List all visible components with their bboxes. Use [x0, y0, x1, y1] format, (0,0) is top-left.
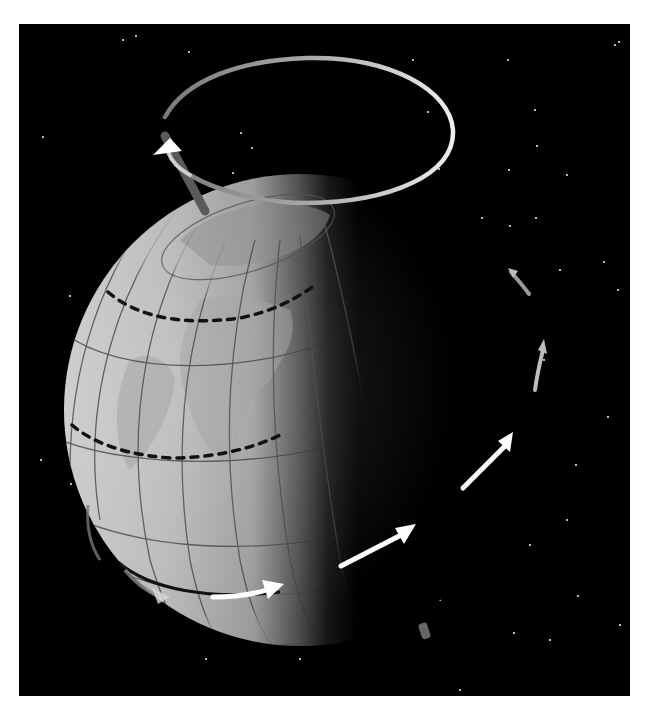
star: [412, 59, 414, 61]
star: [459, 689, 461, 691]
star: [534, 109, 536, 111]
star: [42, 136, 44, 138]
star: [536, 145, 538, 147]
star: [529, 544, 531, 546]
star: [577, 595, 579, 597]
star: [205, 658, 207, 660]
star: [69, 295, 71, 297]
star: [122, 39, 124, 41]
star: [513, 632, 515, 634]
star: [232, 172, 234, 174]
star: [509, 225, 511, 227]
precession-illustration: [0, 0, 645, 712]
star: [575, 464, 577, 466]
star: [543, 359, 545, 361]
star: [427, 111, 429, 113]
star: [549, 639, 551, 641]
star: [299, 658, 301, 660]
star: [135, 35, 137, 37]
star: [607, 416, 609, 418]
star: [507, 59, 509, 61]
star: [566, 519, 568, 521]
star: [614, 44, 616, 46]
star: [508, 169, 510, 171]
star: [188, 51, 190, 53]
star: [566, 174, 568, 176]
star: [251, 147, 253, 149]
star: [240, 132, 242, 134]
star: [481, 217, 483, 219]
star: [617, 289, 619, 291]
star: [619, 624, 621, 626]
star: [535, 217, 537, 219]
star: [70, 483, 72, 485]
star: [603, 261, 605, 263]
star: [618, 41, 620, 43]
star: [40, 459, 42, 461]
star: [559, 269, 561, 271]
